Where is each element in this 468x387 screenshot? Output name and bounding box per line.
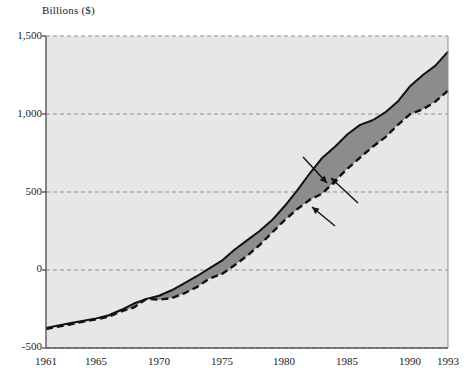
budget-area-chart: Billions ($) 1,500 1,000 500 0 -500 1961… (0, 0, 468, 387)
plot-background (46, 36, 448, 348)
plot-canvas (0, 0, 468, 387)
plot-background-group (46, 36, 448, 348)
